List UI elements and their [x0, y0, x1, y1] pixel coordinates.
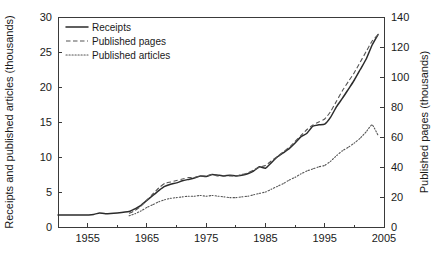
- y-tick-label: 15: [40, 116, 52, 128]
- line-chart: 195519651975198519952005 051015202530 02…: [0, 0, 439, 276]
- y-tick-label: 30: [40, 11, 52, 23]
- x-tick-label: 1975: [194, 232, 218, 244]
- y-tick-label: 25: [40, 46, 52, 58]
- y-tick-label: 10: [40, 151, 52, 163]
- y2-tick-label: 20: [391, 191, 403, 203]
- chart-figure: 195519651975198519952005 051015202530 02…: [0, 0, 439, 276]
- y2-tick-label: 100: [391, 71, 409, 83]
- y-axis-right-title: Published pages (thousands): [418, 51, 430, 193]
- x-tick-label: 1985: [253, 232, 277, 244]
- y-tick-label: 5: [46, 186, 52, 198]
- x-tick-label: 1955: [75, 232, 99, 244]
- y2-tick-label: 60: [391, 131, 403, 143]
- y-tick-label: 0: [46, 221, 52, 233]
- legend-label: Published pages: [92, 36, 166, 47]
- y2-tick-label: 140: [391, 11, 409, 23]
- y2-tick-label: 120: [391, 41, 409, 53]
- x-tick-label: 1965: [135, 232, 159, 244]
- y-tick-label: 20: [40, 81, 52, 93]
- y2-tick-label: 0: [391, 221, 397, 233]
- legend-label: Receipts: [92, 22, 131, 33]
- y2-tick-label: 80: [391, 101, 403, 113]
- legend-label: Published articles: [92, 50, 170, 61]
- x-tick-label: 1995: [312, 232, 336, 244]
- y2-tick-label: 40: [391, 161, 403, 173]
- x-tick-label: 2005: [372, 232, 396, 244]
- y-axis-left-title: Receipts and published articles (thousan…: [3, 15, 15, 228]
